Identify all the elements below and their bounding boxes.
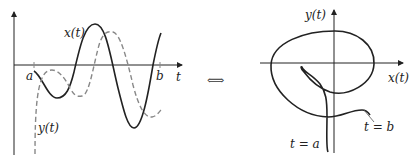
parametric-curve-diagram: x(t) y(t) a b t ⟺ y(t) x(t) t = a t = b [0,0,411,162]
x-of-t-label: x(t) [64,26,85,40]
right-x-axis-label: x(t) [388,71,409,85]
left-plot: x(t) y(t) a b t [14,12,182,155]
tick-a-label: a [26,69,33,83]
tick-b-label: b [156,69,164,83]
parametric-curve [271,31,374,152]
start-label: t = a [290,137,320,151]
t-axis-label: t [176,70,181,84]
right-plot: y(t) x(t) t = a t = b [260,8,409,153]
equivalence-symbol: ⟺ [207,73,224,87]
end-label: t = b [364,120,394,134]
y-of-t-label: y(t) [37,121,59,135]
x-of-t-curve [34,24,161,128]
y-of-t-curve [35,32,161,154]
right-y-axis-label: y(t) [304,8,326,22]
